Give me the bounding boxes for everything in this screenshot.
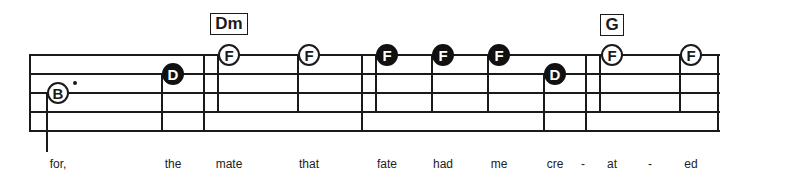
note-stem <box>161 74 163 131</box>
music-staff-score: BDFFFFFDFFDmGfor,thematethatfatehadmecre… <box>0 0 785 185</box>
note-head-f: F <box>298 44 320 66</box>
note-head-f: F <box>601 44 623 66</box>
note-head-b: B <box>47 82 69 104</box>
lyric-syllable: mate <box>216 157 243 171</box>
dotted-note-dot <box>73 81 77 85</box>
lyric-syllable: ed <box>684 157 697 171</box>
note-head-d: D <box>162 63 184 85</box>
note-stem <box>46 93 48 152</box>
note-stem <box>217 55 219 112</box>
note-head-f: F <box>376 44 398 66</box>
lyric-syllable: had <box>433 157 453 171</box>
barline <box>203 54 205 132</box>
note-head-d: D <box>544 63 566 85</box>
lyric-syllable: the <box>165 157 182 171</box>
lyric-syllable: cre <box>547 157 564 171</box>
note-stem <box>599 55 601 112</box>
note-head-f: F <box>432 44 454 66</box>
barline <box>29 54 31 132</box>
lyric-syllable: me <box>491 157 508 171</box>
lyric-syllable: for, <box>50 157 67 171</box>
note-stem <box>431 55 433 112</box>
note-head-f: F <box>680 44 702 66</box>
lyric-syllable: - <box>581 157 585 171</box>
staff-line <box>30 130 720 132</box>
lyric-syllable: fate <box>377 157 397 171</box>
barline <box>585 54 587 132</box>
note-stem <box>679 55 681 112</box>
chord-symbol: G <box>600 14 624 36</box>
chord-symbol: Dm <box>210 13 248 35</box>
note-stem <box>375 55 377 112</box>
note-stem <box>297 55 299 112</box>
note-stem <box>543 74 545 131</box>
barline <box>717 54 719 132</box>
lyric-syllable: - <box>648 157 652 171</box>
lyric-syllable: at <box>607 157 617 171</box>
note-stem <box>487 55 489 112</box>
note-head-f: F <box>218 44 240 66</box>
barline <box>361 54 363 132</box>
note-head-f: F <box>488 44 510 66</box>
lyric-syllable: that <box>299 157 319 171</box>
